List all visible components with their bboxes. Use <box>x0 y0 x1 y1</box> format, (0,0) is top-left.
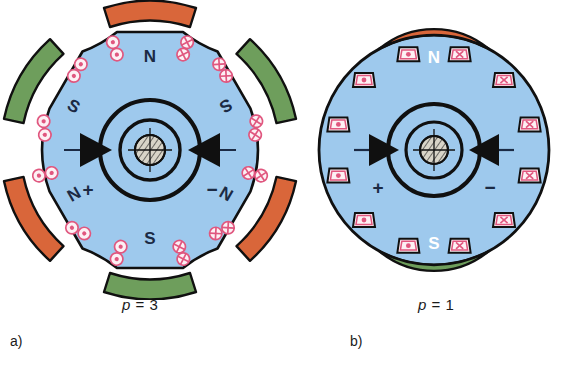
rotor-slot-dot-2 <box>353 73 375 87</box>
rotor-slot-dot-5 <box>353 213 375 227</box>
polarity-plus: + <box>82 179 93 200</box>
caption-p3-value: 3 <box>149 296 158 313</box>
pole-label-s: S <box>428 234 439 253</box>
pole-label-n: N <box>428 48 440 67</box>
pole-label-s-bottom: S <box>144 229 155 248</box>
caption-p1-relation: = <box>432 296 441 313</box>
rotor-slot-cross-3 <box>519 117 541 131</box>
rotor-slot-cross-5 <box>493 213 515 227</box>
rotor-slot-dot-1 <box>397 47 419 61</box>
rotor-slot-dot-6 <box>397 239 419 253</box>
rotor-slot-dot-3 <box>327 117 349 131</box>
rotor-slot-cross-4 <box>519 169 541 183</box>
pole-label-n-top: N <box>144 47 156 66</box>
rotor-slot-dot-4 <box>327 169 349 183</box>
caption-p1-value: 1 <box>445 296 454 313</box>
stator-arc-n-1 <box>104 1 196 27</box>
caption-p3: p = 3 <box>122 296 158 313</box>
caption-p3-relation: = <box>136 296 145 313</box>
rotor-slot-cross-2 <box>493 73 515 87</box>
rotor-slot-cross-1 <box>449 47 471 61</box>
figure-label-b: b) <box>350 333 362 349</box>
polarity-plus: + <box>372 177 383 198</box>
caption-p1: p = 1 <box>418 296 454 313</box>
caption-p1-variable: p <box>418 296 427 313</box>
rotor-slot-cross-6 <box>449 239 471 253</box>
figure-label-a: a) <box>10 333 22 349</box>
motor-diagram-salient-pole: N S N S N S <box>0 0 300 300</box>
polarity-minus: − <box>484 177 495 198</box>
motor-diagram-round-rotor: N S <box>294 0 574 300</box>
figure-canvas: N S N S N S <box>0 0 574 370</box>
caption-p3-variable: p <box>122 296 131 313</box>
polarity-minus: − <box>206 179 217 200</box>
